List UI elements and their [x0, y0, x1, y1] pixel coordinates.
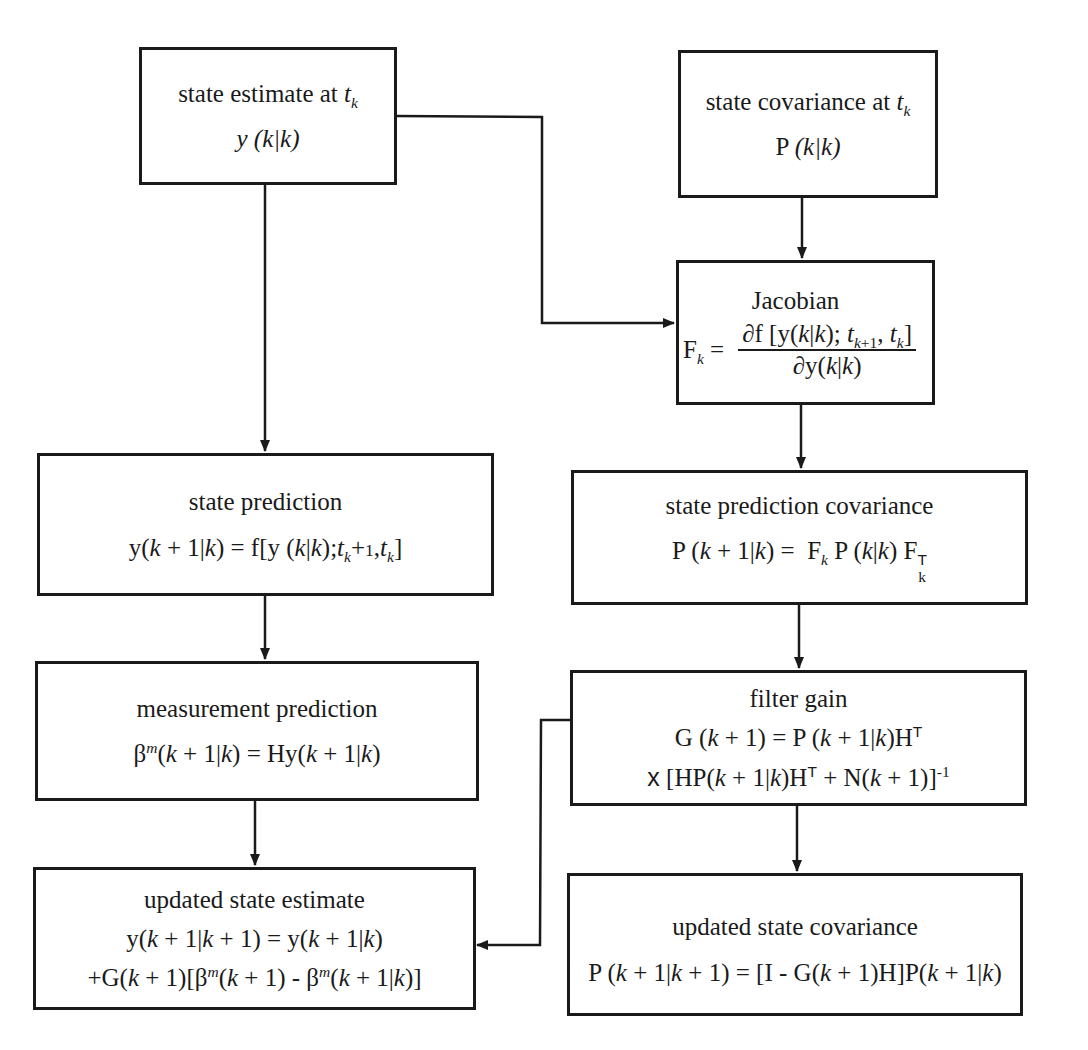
edge-gain-to-update [477, 720, 570, 945]
box-title: updated state covariance [672, 911, 918, 942]
jacobian-numerator: ∂f [y(k|k); tk+1, tk] [738, 320, 916, 351]
jacobian-fraction: ∂f [y(k|k); tk+1, tk] ∂y(k|k) [738, 320, 916, 380]
jacobian-lhs: Fk = [683, 336, 724, 364]
box-title: Jacobian [752, 285, 839, 316]
box-updated-state-estimate: updated state estimate y(k + 1|k + 1) = … [33, 867, 476, 1010]
box-equation-line1: G (k + 1) = P (k + 1|k)HT [675, 722, 923, 753]
box-title: state covariance at tk [706, 86, 911, 117]
box-title: updated state estimate [144, 884, 365, 915]
box-title: state prediction covariance [666, 490, 934, 521]
box-title: measurement prediction [137, 693, 378, 724]
box-title: state estimate at tk [178, 78, 358, 109]
edge-estimate-to-jacobian [396, 116, 674, 323]
box-equation: P (k + 1|k) = Fk P (k|k) FTk [672, 535, 927, 585]
box-equation: P (k + 1|k + 1) = [I - G(k + 1)H]P(k + 1… [588, 957, 1002, 988]
box-state-prediction-covariance: state prediction covariance P (k + 1|k) … [571, 470, 1028, 605]
box-state-covariance: state covariance at tk P (k|k) [678, 50, 938, 198]
box-equation-line1: y(k + 1|k + 1) = y(k + 1|k) [126, 923, 383, 954]
box-equation: y(k + 1|k) = f[y (k|k);tk+1,tk] [129, 532, 402, 563]
box-equation: y (k|k) [236, 123, 299, 154]
jacobian-denominator: ∂y(k|k) [793, 351, 862, 380]
box-title: filter gain [750, 683, 848, 714]
box-state-prediction: state prediction y(k + 1|k) = f[y (k|k);… [37, 453, 494, 596]
box-equation-line2: +G(k + 1)[βm(k + 1) - βm(k + 1|k)] [87, 962, 421, 993]
box-jacobian: Jacobian Fk = ∂f [y(k|k); tk+1, tk] ∂y(k… [676, 260, 935, 405]
box-state-estimate: state estimate at tk y (k|k) [139, 47, 397, 185]
box-equation: βm(k + 1|k) = Hy(k + 1|k) [133, 738, 380, 769]
box-measurement-prediction: measurement prediction βm(k + 1|k) = Hy(… [35, 661, 479, 801]
box-equation-line2: x [HP(k + 1|k)HT + N(k + 1)]-1 [647, 762, 949, 793]
box-filter-gain: filter gain G (k + 1) = P (k + 1|k)HT x … [570, 670, 1027, 806]
box-equation: P (k|k) [776, 131, 841, 162]
box-title: state prediction [189, 486, 342, 517]
box-updated-state-covariance: updated state covariance P (k + 1|k + 1)… [567, 873, 1023, 1016]
jacobian-equation: Fk = ∂f [y(k|k); tk+1, tk] ∂y(k|k) [683, 320, 916, 380]
